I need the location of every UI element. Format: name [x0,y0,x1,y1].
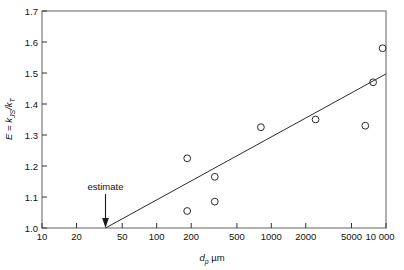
y-tick-label: 1.7 [25,6,38,17]
y-axis-title: E = kJS/kT [3,97,16,139]
plot-frame [42,11,386,228]
x-tick-label: 50 [117,231,128,242]
x-axis-title-unit: µm [211,252,224,263]
x-tick-label: 10 [37,231,48,242]
x-tick-label: 500 [229,231,245,242]
y-tick-label: 1.6 [25,37,38,48]
y-tick-label: 1.5 [25,68,38,79]
y-axis-tick-labels: 1.7 1.6 1.5 1.4 1.3 1.2 1.1 1.0 [25,6,38,234]
y-tick-label: 1.2 [25,161,38,172]
x-axis-title: dp µm [199,252,224,266]
svg-text:E = kJS/kT: E = kJS/kT [3,97,16,139]
scatter-plot: 1.7 1.6 1.5 1.4 1.3 1.2 1.1 1.0 10 20 [0,0,404,270]
y-tick-label: 1.1 [25,192,38,203]
x-tick-label: 5000 [341,231,362,242]
figure-container: 1.7 1.6 1.5 1.4 1.3 1.2 1.1 1.0 10 20 [0,0,404,270]
y-axis-title-sub1: JS [9,109,16,119]
x-tick-label: 2000 [295,231,316,242]
estimate-label: estimate [88,181,124,192]
x-tick-label: 1000 [261,231,282,242]
x-axis-tick-labels: 10 20 50 100 200 500 1000 2000 5000 10 0… [37,231,395,242]
y-axis-title-prefix: E = k [3,117,14,140]
x-tick-label: 200 [183,231,199,242]
y-tick-label: 1.3 [25,130,38,141]
x-tick-label: 100 [149,231,165,242]
x-tick-label: 20 [71,231,82,242]
x-tick-label: 10 000 [365,231,394,242]
y-axis-title-sub2: T [9,97,16,102]
svg-text:dp µm: dp µm [199,252,224,266]
y-tick-label: 1.4 [25,99,38,110]
